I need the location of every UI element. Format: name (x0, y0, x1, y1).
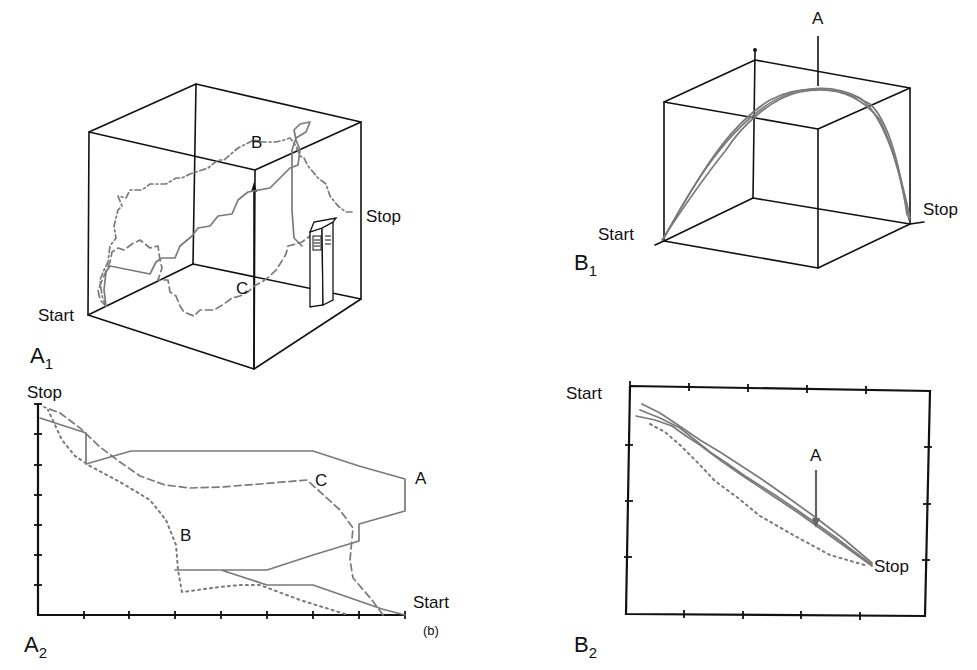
b2-trace-dotted (650, 424, 868, 566)
figure-caption-b: (b) (423, 623, 439, 638)
a1-label-b: B (251, 133, 262, 152)
a2-label-b: B (180, 526, 191, 545)
a2-stop-label: Stop (27, 383, 62, 402)
b2-stop-label: Stop (874, 557, 909, 576)
b2-marker-arrow (812, 470, 820, 528)
b2-axes (624, 381, 932, 620)
b1-trace-1 (664, 88, 910, 238)
a2-trace-c (44, 407, 383, 615)
figure-canvas: B C Stop Start A1 (0, 0, 977, 670)
a2-label-c: C (315, 471, 327, 490)
a1-device-icon (310, 218, 336, 307)
panel-b2: A Start Stop B2 (566, 381, 932, 661)
b1-marker-label: A (812, 9, 824, 28)
a1-panel-label: A1 (30, 343, 53, 372)
a2-start-label: Start (413, 593, 449, 612)
b1-stop-label: Stop (923, 200, 958, 219)
a2-label-a: A (415, 469, 427, 488)
a1-trace-a (104, 122, 310, 306)
panel-a2: A B C Stop Start (b) A2 (24, 383, 449, 661)
a2-panel-label: A2 (24, 632, 47, 661)
a2-trace-b (48, 410, 345, 614)
panel-a1: B C Stop Start A1 (30, 84, 401, 372)
b1-cube-frame (655, 48, 924, 268)
b2-start-label: Start (566, 384, 602, 403)
b1-panel-label: B1 (574, 250, 597, 279)
a1-label-c: C (236, 279, 248, 298)
panel-b1: A Start Stop B1 (574, 9, 958, 279)
b1-start-label: Start (598, 225, 634, 244)
b2-marker-label: A (810, 446, 822, 465)
a2-trace-a (40, 418, 405, 615)
b2-panel-label: B2 (574, 632, 597, 661)
a1-trace-c (98, 236, 310, 316)
a1-stop-label: Stop (366, 207, 401, 226)
a1-start-label: Start (38, 306, 74, 325)
